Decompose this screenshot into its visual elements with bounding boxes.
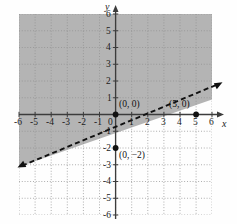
y-tick-label-1: 1 [107, 94, 112, 104]
x-tick-label-1: 1 [129, 118, 134, 128]
y-tick-label-5: 5 [106, 27, 111, 37]
y-tick-label--3: -3 [103, 161, 111, 171]
x-tick-label-6: 6 [209, 118, 214, 128]
x-axis-arrowhead [217, 112, 224, 118]
y-tick-label--6: -6 [103, 211, 111, 221]
annotation-origin: (0, 0) [119, 100, 140, 110]
point-y-intercept-dot [113, 145, 119, 151]
x-tick-label--6: -6 [14, 118, 22, 128]
point-origin-dot [113, 112, 119, 118]
x-tick-label-4: 4 [177, 118, 182, 128]
y-tick-label-4: 4 [106, 43, 111, 53]
x-tick-label--3: -3 [62, 118, 70, 128]
annotation-y-intercept: (0, −2) [119, 151, 145, 161]
y-axis-label: y [105, 2, 109, 12]
x-tick-label--5: -5 [30, 118, 38, 128]
coordinate-plane-svg [0, 0, 237, 224]
x-axis-label: x [222, 119, 226, 129]
x-tick-label-5: 5 [193, 118, 198, 128]
y-tick-label--4: -4 [103, 177, 111, 187]
x-tick-label--2: -2 [78, 118, 86, 128]
x-tick-label-3: 3 [161, 118, 166, 128]
x-tick-label--1: -1 [94, 118, 102, 128]
annotation-x-intercept: (5, 0) [169, 100, 190, 110]
x-tick-label--4: -4 [46, 118, 54, 128]
graph-figure: -6 -5 -4 -3 -2 -1 0 1 2 3 4 5 6 6 5 4 3 … [0, 0, 237, 224]
y-tick-label-2: 2 [106, 77, 111, 87]
line-arrowhead-right [214, 82, 223, 89]
y-tick-label-3: 3 [106, 60, 111, 70]
y-tick-label--5: -5 [103, 194, 111, 204]
x-tick-label-2: 2 [145, 118, 150, 128]
y-tick-label--2: -2 [103, 144, 111, 154]
y-axis-arrowhead [113, 5, 119, 12]
y-tick-label--1: -1 [103, 127, 111, 137]
